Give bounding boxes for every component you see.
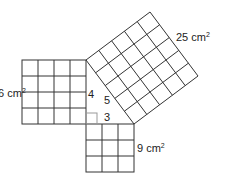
bottom-square-area-label: 9 cm2 — [137, 142, 165, 154]
left-square — [22, 60, 86, 124]
side-b-label: 3 — [104, 111, 110, 123]
bottom-square — [86, 124, 134, 172]
pythagoras-diagram: 16 cm2 9 cm2 25 cm2 4 3 5 — [0, 0, 226, 179]
right-angle-marker — [86, 113, 97, 124]
side-a-label: 4 — [88, 88, 94, 100]
hypotenuse-square — [86, 12, 198, 124]
hypotenuse-square-area-label: 25 cm2 — [176, 31, 210, 43]
side-c-label: 5 — [104, 94, 110, 106]
